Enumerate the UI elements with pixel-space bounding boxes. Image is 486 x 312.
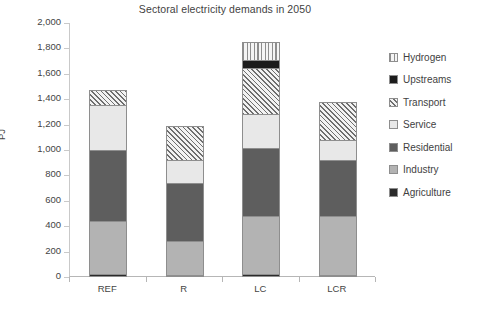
- y-axis-tick-label: 800: [45, 168, 61, 179]
- bar-segment-residential[interactable]: [242, 148, 280, 216]
- bar-segment-transport[interactable]: [89, 90, 127, 105]
- y-axis-tick-label: 1,000: [37, 143, 61, 154]
- bar-segment-agriculture[interactable]: [319, 275, 357, 277]
- bar-segment-service[interactable]: [319, 140, 357, 160]
- y-axis-tick-label: 1,200: [37, 118, 61, 129]
- bar-segment-residential[interactable]: [319, 160, 357, 216]
- bar-segment-service[interactable]: [166, 160, 204, 183]
- bar-segment-transport[interactable]: [319, 102, 357, 140]
- bar-segment-agriculture[interactable]: [166, 275, 204, 277]
- legend-label: Upstreams: [403, 74, 451, 85]
- y-axis-tick-label: 600: [45, 194, 61, 205]
- bar-segment-industry[interactable]: [319, 216, 357, 274]
- bar-segment-service[interactable]: [89, 105, 127, 150]
- y-axis-tick-label: 0: [56, 270, 61, 281]
- bar-segment-agriculture[interactable]: [89, 274, 127, 277]
- legend-item-residential[interactable]: Residential: [389, 136, 485, 159]
- y-axis-tick-label: 2,000: [37, 16, 61, 27]
- x-axis-tick-mark: [375, 277, 376, 282]
- y-axis-tick-label: 400: [45, 219, 61, 230]
- legend-item-industry[interactable]: Industry: [389, 159, 485, 182]
- x-axis-tick-mark: [222, 277, 223, 282]
- plot-area: [69, 23, 375, 277]
- legend-label: Industry: [403, 164, 439, 175]
- chart-title: Sectoral electricity demands in 2050: [90, 3, 360, 15]
- x-axis-tick-mark: [299, 277, 300, 282]
- x-axis-label-ref: REF: [77, 283, 137, 294]
- legend-item-hydrogen[interactable]: Hydrogen: [389, 46, 485, 69]
- legend-swatch-agriculture-icon: [389, 188, 398, 197]
- bar-ref[interactable]: [89, 23, 127, 277]
- legend-label: Agriculture: [403, 187, 451, 198]
- bar-segment-upstreams[interactable]: [242, 60, 280, 68]
- bar-segment-hydrogen[interactable]: [242, 42, 280, 60]
- bar-segment-residential[interactable]: [166, 183, 204, 241]
- legend-swatch-transport-icon: [389, 98, 398, 107]
- chart-legend: HydrogenUpstreamsTransportServiceResiden…: [389, 46, 485, 204]
- y-axis-tick-label: 1,800: [37, 41, 61, 52]
- legend-label: Service: [403, 119, 436, 130]
- bar-segment-industry[interactable]: [242, 216, 280, 274]
- bar-segment-agriculture[interactable]: [242, 274, 280, 277]
- bar-lc[interactable]: [242, 23, 280, 277]
- bar-segment-industry[interactable]: [89, 221, 127, 274]
- legend-item-transport[interactable]: Transport: [389, 91, 485, 114]
- legend-swatch-industry-icon: [389, 165, 398, 174]
- legend-item-service[interactable]: Service: [389, 114, 485, 137]
- y-axis-tick-label: 200: [45, 245, 61, 256]
- legend-swatch-service-icon: [389, 120, 398, 129]
- legend-item-upstreams[interactable]: Upstreams: [389, 69, 485, 92]
- legend-swatch-hydrogen-icon: [389, 53, 398, 62]
- bar-segment-residential[interactable]: [89, 150, 127, 221]
- bar-segment-industry[interactable]: [166, 241, 204, 275]
- bar-segment-service[interactable]: [242, 114, 280, 148]
- x-axis-label-lc: LC: [230, 283, 290, 294]
- y-axis-tick-label: 1,400: [37, 92, 61, 103]
- x-axis-tick-mark: [69, 277, 70, 282]
- legend-swatch-residential-icon: [389, 143, 398, 152]
- bar-r[interactable]: [166, 23, 204, 277]
- legend-item-agriculture[interactable]: Agriculture: [389, 181, 485, 204]
- legend-label: Transport: [403, 97, 445, 108]
- y-axis-tick-label: 1,600: [37, 67, 61, 78]
- x-axis-label-r: R: [154, 283, 214, 294]
- chart-container: Sectoral electricity demands in 2050 PJ …: [0, 0, 486, 312]
- legend-label: Residential: [403, 142, 452, 153]
- bar-group: [70, 23, 376, 277]
- y-axis-label: PJ: [0, 129, 7, 140]
- x-axis-tick-mark: [146, 277, 147, 282]
- bar-segment-transport[interactable]: [242, 68, 280, 114]
- legend-swatch-upstreams-icon: [389, 75, 398, 84]
- bar-segment-transport[interactable]: [166, 126, 204, 160]
- legend-label: Hydrogen: [403, 52, 446, 63]
- x-axis-label-lcr: LCR: [307, 283, 367, 294]
- bar-lcr[interactable]: [319, 23, 357, 277]
